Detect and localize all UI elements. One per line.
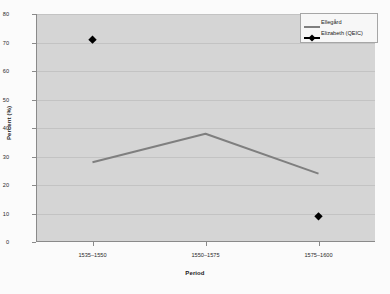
x-tick-mark — [93, 242, 94, 246]
y-tick-label: 0 — [0, 239, 9, 245]
y-tick-label: 80 — [0, 11, 9, 17]
y-tick-label: 20 — [0, 182, 9, 188]
legend-label: Elizabeth (QEIC) — [321, 31, 363, 37]
x-tick-label: 1575–1600 — [279, 252, 359, 258]
x-tick-label: 1535–1550 — [53, 252, 133, 258]
y-tick-label: 50 — [0, 97, 9, 103]
y-tick-mark — [32, 242, 36, 243]
series-layer — [36, 14, 375, 242]
y-tick-label: 70 — [0, 40, 9, 46]
legend-swatch — [303, 18, 321, 28]
series-line-elleg-rd — [93, 134, 319, 174]
legend-item: Ellegård — [303, 17, 374, 28]
x-tick-mark — [206, 242, 207, 246]
legend-label: Ellegård — [321, 20, 342, 26]
data-point-marker — [88, 35, 96, 43]
x-axis-title: Period — [0, 270, 390, 276]
y-tick-label: 40 — [0, 125, 9, 131]
x-tick-label: 1550–1575 — [166, 252, 246, 258]
y-tick-label: 60 — [0, 68, 9, 74]
legend-swatch — [303, 29, 321, 39]
chart-container: Percent (%) 80706050403020100 1535–15501… — [0, 0, 390, 294]
data-point-marker — [314, 212, 322, 220]
x-tick-mark — [319, 242, 320, 246]
y-tick-label: 30 — [0, 154, 9, 160]
legend-item: Elizabeth (QEIC) — [303, 28, 374, 39]
y-tick-label: 10 — [0, 211, 9, 217]
chart-legend: EllegårdElizabeth (QEIC) — [300, 13, 378, 43]
